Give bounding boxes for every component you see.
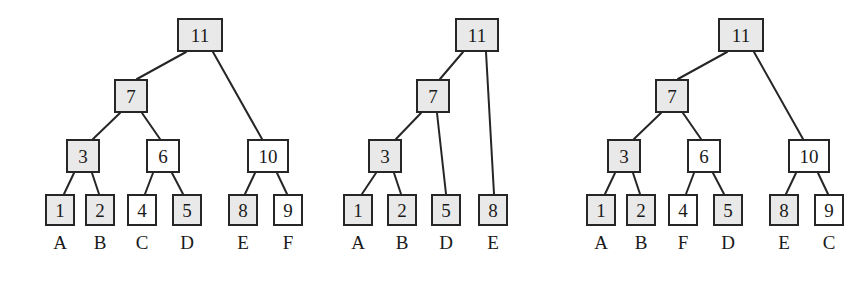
tree-internal-node: 3 [66,139,100,173]
tree-leaf-node: 5 [713,194,743,226]
leaf-symbol-label: A [586,232,616,254]
tree-edge [786,173,796,194]
leaf-symbol-label: B [85,232,115,254]
leaf-symbol-label: B [626,232,656,254]
tree-edge [754,52,803,139]
tree-left: 1171036124589ABCDEF [0,0,320,288]
tree-leaf-node: 8 [228,194,258,226]
tree-edge [486,52,494,194]
tree-internal-node: 7 [114,79,148,113]
tree-edge [713,173,724,194]
tree-leaf-node: 5 [431,194,461,226]
tree-edge [678,52,727,79]
tree-internal-node: 11 [177,18,223,52]
tree-edge [93,113,120,139]
leaf-symbol-label: A [343,232,373,254]
tree-edge [142,113,160,139]
tree-edge [92,173,99,194]
huffman-tree-figure: 1171036124589ABCDEF11731258ABDE117103612… [0,0,850,288]
tree-edge [686,173,694,194]
tree-edge [213,52,262,139]
leaf-symbol-label: C [127,232,157,254]
leaf-symbol-label: F [668,232,698,254]
leaf-symbol-label: D [172,232,202,254]
tree-edge [245,173,255,194]
leaf-symbol-label: E [478,232,508,254]
tree-leaf-node: 8 [478,194,508,226]
tree-leaf-node: 4 [127,194,157,226]
tree-edge [64,173,74,194]
tree-edge [396,113,421,139]
tree-leaf-node: 1 [586,194,616,226]
tree-edge [818,173,828,194]
tree-internal-node: 11 [718,18,764,52]
tree-internal-node: 7 [655,79,689,113]
tree-internal-node: 6 [146,139,180,173]
tree-edge [137,52,186,79]
tree-edge [172,173,183,194]
tree-edge [394,173,401,194]
tree-internal-node: 11 [455,18,499,52]
leaf-symbol-label: E [769,232,799,254]
tree-leaf-node: 1 [343,194,373,226]
leaf-symbol-label: A [45,232,75,254]
tree-leaf-node: 1 [45,194,75,226]
tree-internal-node: 10 [788,139,830,173]
leaf-symbol-label: D [431,232,461,254]
tree-edge [683,113,701,139]
tree-internal-node: 7 [416,79,450,113]
tree-right: 1171036124589ABFDEC [570,0,850,288]
tree-internal-node: 3 [607,139,641,173]
leaf-symbol-label: C [814,232,844,254]
tree-edge [437,113,446,194]
tree-internal-node: 6 [687,139,721,173]
tree-leaf-node: 9 [273,194,303,226]
tree-edge [362,173,376,194]
tree-leaf-node: 2 [85,194,115,226]
tree-edge [440,52,463,79]
tree-leaf-node: 2 [626,194,656,226]
leaf-symbol-label: E [228,232,258,254]
leaf-symbol-label: D [713,232,743,254]
tree-edge [605,173,615,194]
tree-internal-node: 3 [368,139,402,173]
tree-leaf-node: 2 [387,194,417,226]
tree-leaf-node: 5 [172,194,202,226]
tree-leaf-node: 8 [769,194,799,226]
leaf-symbol-label: B [387,232,417,254]
leaf-symbol-label: F [273,232,303,254]
tree-edge [277,173,287,194]
tree-internal-node: 10 [247,139,289,173]
tree-leaf-node: 4 [668,194,698,226]
tree-leaf-node: 9 [814,194,844,226]
tree-edge [145,173,153,194]
tree-edge [634,113,661,139]
tree-edge [633,173,640,194]
